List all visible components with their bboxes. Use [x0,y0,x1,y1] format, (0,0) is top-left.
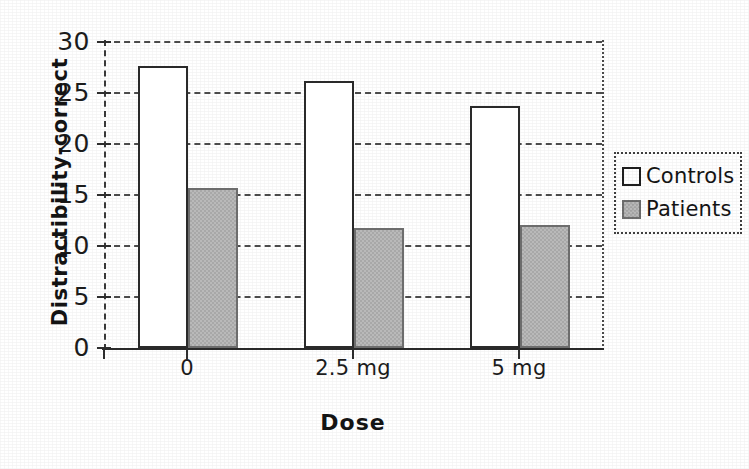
bar-patients-5mg[interactable] [520,225,570,348]
legend-item-patients[interactable]: Patients [622,193,735,226]
plot-right-border [602,40,604,350]
open-square-swatch-icon [622,167,641,186]
y-axis-title: Distractibility-correct [48,47,72,337]
bar-controls-0[interactable] [138,66,188,348]
legend-label-patients: Patients [646,199,732,220]
legend-label-controls: Controls [646,166,734,187]
bars-layer [104,42,602,348]
bar-controls-5mg[interactable] [470,106,520,348]
gray-square-swatch-icon [622,200,641,219]
legend-item-controls[interactable]: Controls [622,160,735,193]
bar-patients-0[interactable] [188,188,238,348]
x-tick-label-2: 5 mg [436,358,602,379]
bar-patients-25mg[interactable] [354,228,404,348]
x-tick-label-1: 2.5 mg [270,358,436,379]
bar-chart-figure: 302520151050 02.5 mg5 mg Distractibility… [0,0,749,469]
x-axis-title: Dose [104,410,602,435]
chart-legend: Controls Patients [614,152,742,234]
x-tick-label-0: 0 [104,358,270,379]
y-tick-label-0: 0 [40,335,90,360]
bar-controls-25mg[interactable] [304,81,354,348]
